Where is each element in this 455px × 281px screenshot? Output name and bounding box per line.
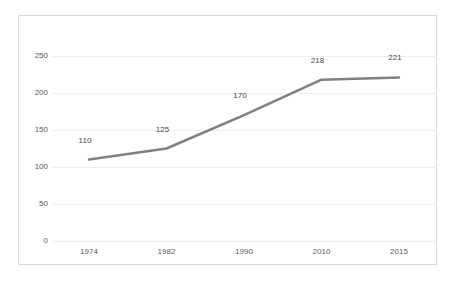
series-line bbox=[89, 77, 399, 159]
data-point-label: 218 bbox=[311, 57, 324, 65]
line-chart: 050100150200250 19741982199020102015 110… bbox=[0, 0, 455, 281]
data-point-label: 125 bbox=[156, 126, 169, 134]
chart-plot-frame: 050100150200250 19741982199020102015 110… bbox=[18, 15, 437, 265]
chart-plot-area: 050100150200250 19741982199020102015 110… bbox=[19, 16, 438, 266]
data-point-label: 110 bbox=[79, 137, 92, 145]
data-point-label: 170 bbox=[233, 92, 246, 100]
data-point-label: 221 bbox=[388, 54, 401, 62]
